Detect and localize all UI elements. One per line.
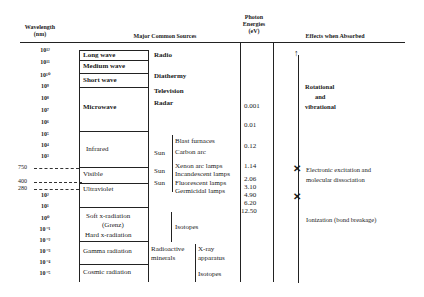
wavelength-tick: 10¹² xyxy=(30,47,60,53)
band-divider xyxy=(79,183,149,184)
header-wavelength: Wavelength (nm) xyxy=(22,24,58,38)
arrow-up-icon: ↑ xyxy=(294,49,299,58)
energy-right-border xyxy=(273,42,274,282)
wavelength-tick: 10⁷ xyxy=(30,107,60,113)
header-photon-1: Photon xyxy=(236,14,272,21)
band-grenz: (Grenz) xyxy=(102,221,124,229)
energy-value: 0.12 xyxy=(244,142,256,150)
effect-rotational: Rotational xyxy=(305,83,334,90)
band-right-border xyxy=(148,50,149,282)
source-radar: Radar xyxy=(154,99,173,107)
wavelength-tick: 10⁻⁵ xyxy=(30,269,60,276)
band-medium-wave: Medium wave xyxy=(83,62,125,70)
band-cosmic: Cosmic radiation xyxy=(83,268,131,276)
energy-value: 6.20 xyxy=(244,199,256,207)
band-left-border xyxy=(79,50,80,282)
header-rule xyxy=(20,42,405,43)
marker-750: 750 xyxy=(18,164,27,170)
wavelength-tick: 10¹ xyxy=(30,203,60,209)
source-sun-3: Sun xyxy=(154,179,165,187)
wavelength-tick: 10⁻³ xyxy=(30,247,60,254)
energy-value: 2.06 xyxy=(244,175,256,183)
marker-400-line xyxy=(34,182,82,183)
band-soft-x: Soft x-radiation xyxy=(86,212,130,220)
source-isotopes-2: Isotopes xyxy=(198,270,221,278)
band-divider xyxy=(79,264,149,265)
source-blast-furnaces: Blast furnaces xyxy=(175,137,215,145)
header-effects: Effects when Absorbed xyxy=(290,33,380,40)
source-radioactive: Radioactive xyxy=(151,245,184,253)
wavelength-tick: 10³ xyxy=(30,153,60,159)
band-infrared: Infrared xyxy=(86,145,109,153)
source-sun-1: Sun xyxy=(154,149,165,157)
wavelength-tick: 10¹⁰ xyxy=(30,71,60,78)
header-wavelength-label: Wavelength xyxy=(22,24,58,31)
effect-electronic: Electronic excitation and xyxy=(306,166,371,173)
wavelength-tick: 10⁵ xyxy=(30,131,60,137)
header-sources: Major Common Sources xyxy=(115,33,215,40)
wavelength-tick: 10⁸ xyxy=(30,95,60,101)
band-hard-x: Hard x-radiation xyxy=(85,231,131,239)
header-wavelength-unit: (nm) xyxy=(22,31,58,38)
isotopes-bracket xyxy=(171,212,172,242)
source-fluorescent: Fluorescent lamps xyxy=(175,179,226,187)
marker-280-line xyxy=(34,189,79,190)
energy-value: 0.01 xyxy=(244,121,256,129)
band-divider xyxy=(79,167,149,168)
band-divider xyxy=(79,73,149,74)
source-incandescent: Incandescent lamps xyxy=(175,170,230,178)
energy-value: 0.001 xyxy=(244,102,260,110)
cross-marker-icon: ✕ xyxy=(293,163,301,174)
xray-bracket xyxy=(195,244,196,282)
marker-750-line xyxy=(34,168,79,169)
lamp-bracket xyxy=(172,135,173,192)
energy-value: 1.14 xyxy=(244,162,256,170)
band-divider xyxy=(79,60,149,61)
band-divider xyxy=(79,87,149,88)
energy-value: 4.90 xyxy=(244,191,256,199)
source-television: Television xyxy=(154,87,184,95)
source-diathermy: Diathermy xyxy=(154,72,186,80)
source-minerals: minerals xyxy=(151,254,175,262)
energy-left-border xyxy=(240,42,241,282)
source-apparatus: apparatus xyxy=(198,254,225,262)
wavelength-tick: 10⁶ xyxy=(30,119,60,125)
source-isotopes-1: Isotopes xyxy=(175,223,198,231)
source-sun-2: Sun xyxy=(154,167,165,175)
source-xray: X-ray xyxy=(198,245,214,253)
wavelength-tick: 10⁴ xyxy=(30,142,60,148)
source-germicidal: Germicidal lamps xyxy=(175,187,225,195)
band-long-wave: Long wave xyxy=(83,51,115,59)
band-ultraviolet: Ultraviolet xyxy=(83,185,113,193)
wavelength-tick: 10⁰ xyxy=(30,214,60,221)
header-photon-energies: Photon Energies (eV) xyxy=(236,14,272,35)
band-divider xyxy=(79,131,149,132)
band-visible: Visible xyxy=(83,170,103,178)
band-divider xyxy=(79,241,149,242)
wavelength-tick: 10⁻¹ xyxy=(30,225,60,232)
effect-vibrational: vibrational xyxy=(305,103,336,110)
wavelength-tick: 10⁻² xyxy=(30,236,60,243)
effect-and: and xyxy=(315,93,325,100)
header-photon-2: Energies xyxy=(236,21,272,28)
effect-dissociation: molecular dissociation xyxy=(306,176,365,183)
energy-value: 12.50 xyxy=(241,207,257,215)
band-microwave: Microwave xyxy=(83,103,116,111)
band-short-wave: Short wave xyxy=(83,76,117,84)
wavelength-tick: 10² xyxy=(30,192,60,198)
wavelength-tick: 10⁹ xyxy=(30,83,60,89)
source-carbon-arc: Carbon arc xyxy=(175,148,206,156)
band-gamma: Gamma radiation xyxy=(83,247,132,255)
band-divider xyxy=(79,207,149,208)
marker-280: 280 xyxy=(18,185,27,191)
cross-marker-icon: ✕ xyxy=(293,191,301,202)
effect-ionization: Ionization (bond breakage) xyxy=(306,216,376,223)
marker-400: 400 xyxy=(18,178,27,184)
wavelength-tick: 10⁻⁴ xyxy=(30,258,60,265)
header-photon-3: (eV) xyxy=(236,28,272,35)
energy-value: 3.10 xyxy=(244,183,256,191)
source-xenon: Xenon arc lamps xyxy=(175,162,222,170)
source-radio: Radio xyxy=(154,51,172,59)
wavelength-tick: 10¹¹ xyxy=(30,59,60,65)
